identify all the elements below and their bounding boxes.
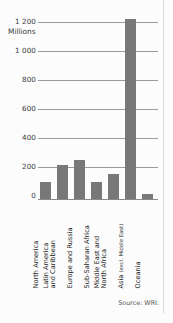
figure-right-border (163, 0, 164, 313)
bar-north-america (40, 182, 51, 199)
bars-layer (38, 12, 158, 199)
y-tick-label: 1 000 (2, 47, 36, 55)
x-tick-label-qualifier: (excl. Middle East) (118, 223, 124, 272)
x-tick-label: Asia (117, 272, 125, 288)
y-axis-tick-labels: 1 200 1 000 800 600 400 200 0 (0, 12, 36, 200)
y-tick-label: 600 (2, 105, 36, 113)
bar-middle-east-and-north-africa (108, 174, 119, 199)
y-tick-label: 400 (2, 134, 36, 142)
y-tick-label: 800 (2, 76, 36, 84)
y-axis-title: Millions (8, 27, 36, 36)
bar-sub-saharan-africa (91, 182, 102, 199)
axis-baseline (38, 199, 158, 200)
bar-europe-and-russia (74, 160, 85, 199)
x-tick-label-line2: North Africa (100, 249, 108, 288)
bar-asia-excl-middle-east (125, 19, 136, 199)
source-note: Source: WRI. (118, 299, 159, 307)
y-tick-label: 1 200 (2, 18, 36, 26)
bar-latin-america-and-caribbean (57, 165, 68, 199)
bar-oceania (142, 194, 153, 199)
y-tick-label: 0 (2, 192, 36, 200)
x-tick-label: North America (32, 240, 40, 288)
x-tick-label: Oceania (134, 261, 142, 288)
y-tick-label: 200 (2, 163, 36, 171)
plot-area (38, 12, 158, 200)
x-tick-label-line2: and Caribbean (49, 240, 57, 288)
x-tick-label: Sub-Saharan Africa (83, 225, 91, 288)
x-tick-label: Europe and Russia (66, 227, 74, 288)
x-axis-tick-labels: North America Latin America and Caribbea… (38, 202, 158, 288)
bar-chart-figure: 1 200 1 000 800 600 400 200 0 Millions N… (0, 0, 173, 323)
